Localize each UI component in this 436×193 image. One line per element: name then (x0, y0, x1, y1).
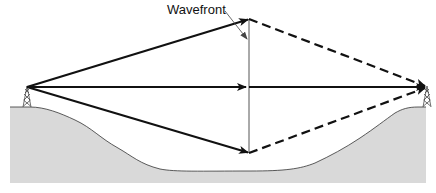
wavefront-diagram: Wavefront (0, 0, 436, 193)
wavefront-label: Wavefront (167, 2, 226, 17)
upper-ray-solid (27, 20, 248, 88)
upper-ray-dashed (249, 19, 425, 86)
transmitter-tower-icon (23, 86, 31, 107)
